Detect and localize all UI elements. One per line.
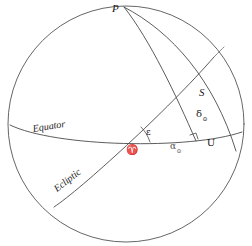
right-ascension-symbol: α [170, 141, 176, 151]
limb-meridian-curve [124, 7, 236, 151]
vernal-equinox-label: ♈ [126, 145, 138, 155]
sun-subscript-right-ascension: ⊙ [177, 147, 182, 154]
obliquity-angle-label: ε [146, 128, 151, 137]
declination-symbol: δ [196, 108, 202, 119]
sun-subscript-declination: ⊙ [203, 115, 208, 122]
ecliptic-curve [54, 57, 214, 207]
sun-label: S [199, 87, 205, 98]
declination-label: δ⊙ [196, 109, 207, 121]
hour-circle-foot-label: U [207, 137, 215, 148]
right-ascension-label: α⊙ [170, 142, 181, 153]
hour-circle-curve [124, 7, 196, 141]
celestial-sphere-diagram: P S U Equator Ecliptic ε ♈ δ⊙ α⊙ [0, 0, 252, 246]
pole-label: P [112, 3, 119, 14]
